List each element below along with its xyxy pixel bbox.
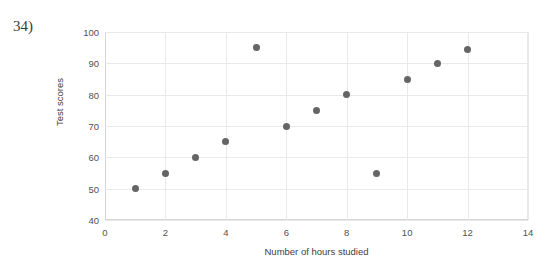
data-point: [404, 76, 411, 83]
x-axis-tick-label: 12: [462, 227, 473, 238]
x-axis-tick-label: 0: [102, 227, 107, 238]
gridline-vertical: [226, 32, 227, 220]
gridline-vertical: [528, 32, 529, 220]
gridline-horizontal: [105, 32, 528, 33]
data-point: [464, 46, 471, 53]
y-axis-tick-label: 60: [88, 152, 99, 163]
x-axis-title: Number of hours studied: [105, 246, 528, 257]
y-axis-tick-label: 80: [88, 89, 99, 100]
data-point: [132, 185, 139, 192]
gridline-horizontal: [105, 189, 528, 190]
x-axis-tick-label: 2: [163, 227, 168, 238]
data-point: [283, 123, 290, 130]
data-point: [313, 107, 320, 114]
gridline-horizontal: [105, 220, 528, 221]
data-point: [343, 91, 350, 98]
x-axis-tick-label: 14: [523, 227, 534, 238]
question-number: 34): [13, 18, 33, 35]
x-axis-tick-label: 10: [402, 227, 413, 238]
scatter-chart: Test scores 40506070809010002468101214 N…: [60, 18, 540, 268]
y-axis-tick-label: 40: [88, 215, 99, 226]
data-point: [434, 60, 441, 67]
data-point: [373, 170, 380, 177]
y-axis-tick-label: 100: [83, 27, 99, 38]
gridline-vertical: [468, 32, 469, 220]
gridline-horizontal: [105, 157, 528, 158]
gridline-horizontal: [105, 95, 528, 96]
y-axis-tick-label: 90: [88, 58, 99, 69]
gridline-vertical: [165, 32, 166, 220]
gridline-horizontal: [105, 126, 528, 127]
data-point: [222, 138, 229, 145]
y-axis-tick-label: 70: [88, 121, 99, 132]
gridline-horizontal: [105, 63, 528, 64]
y-axis-title: Test scores: [54, 78, 65, 126]
x-axis-tick-label: 4: [223, 227, 228, 238]
plot-area: 40506070809010002468101214: [105, 32, 528, 220]
y-axis-tick-label: 50: [88, 183, 99, 194]
x-axis-tick-label: 8: [344, 227, 349, 238]
gridline-vertical: [407, 32, 408, 220]
data-point: [253, 44, 260, 51]
page-root: 34) Test scores 405060708090100024681012…: [0, 0, 549, 273]
x-axis-tick-label: 6: [284, 227, 289, 238]
data-point: [162, 170, 169, 177]
gridline-vertical: [347, 32, 348, 220]
data-point: [192, 154, 199, 161]
